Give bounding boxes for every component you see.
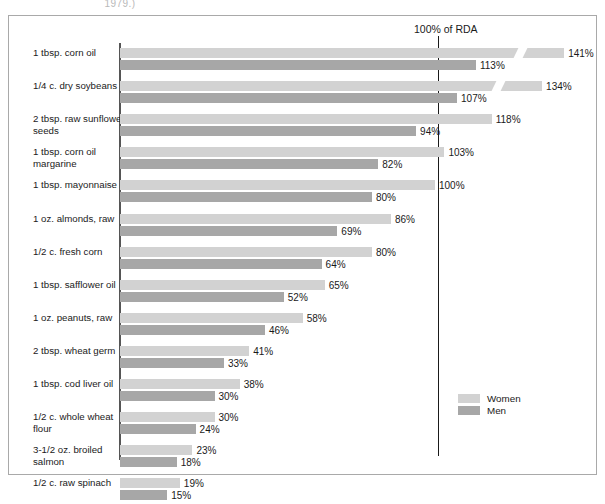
- bar-men: 46%: [120, 325, 265, 335]
- rda-reference-label: 100% of RDA: [414, 23, 478, 35]
- bar-pair: 58%46%: [120, 313, 303, 335]
- bar-women: 134%: [120, 81, 542, 91]
- bar-value-label: 41%: [253, 345, 273, 356]
- bar-row-label: 2 tbsp. wheat germ: [33, 345, 129, 357]
- bar-men: 30%: [120, 391, 215, 401]
- bar-row-label: 3-1/2 oz. broiled salmon: [33, 444, 129, 467]
- plot-area: 100% of RDA 1 tbsp. corn oil141%113%1/4 …: [9, 16, 596, 474]
- legend-label: Women: [487, 393, 521, 405]
- bar-row-label: 1 tbsp. corn oil margarine: [33, 146, 129, 169]
- chart-frame: 100% of RDA 1 tbsp. corn oil141%113%1/4 …: [8, 15, 597, 475]
- bar-value-label: 80%: [376, 246, 396, 257]
- bar-women: 19%: [120, 478, 180, 488]
- bar-pair: 38%30%: [120, 379, 240, 401]
- bar-pair: 141%113%: [120, 48, 564, 70]
- bar-pair: 41%33%: [120, 346, 249, 368]
- bar-value-label: 52%: [288, 291, 308, 302]
- bar-men: 18%: [120, 457, 177, 467]
- bar-women: 65%: [120, 280, 325, 290]
- bar-men: 82%: [120, 159, 378, 169]
- bar-row-label: 1 oz. almonds, raw: [33, 213, 129, 225]
- bar-value-label: 46%: [269, 324, 289, 335]
- bar-value-label: 38%: [244, 379, 264, 390]
- bar-women: 100%: [120, 180, 435, 190]
- bar-men: 64%: [120, 259, 322, 269]
- bar-men: 80%: [120, 192, 372, 202]
- bar-value-label: 33%: [228, 357, 248, 368]
- bar-pair: 134%107%: [120, 81, 542, 103]
- bar-women: 103%: [120, 147, 444, 157]
- bar-value-label: 94%: [420, 126, 440, 137]
- bar-men: 52%: [120, 292, 284, 302]
- bar-value-label: 69%: [341, 225, 361, 236]
- bar-women: 23%: [120, 445, 192, 455]
- bar-women: 118%: [120, 114, 492, 124]
- bar-men: 107%: [120, 93, 457, 103]
- bar-value-label: 80%: [376, 192, 396, 203]
- chart-legend: WomenMen: [458, 393, 521, 416]
- bar-pair: 23%18%: [120, 445, 192, 467]
- legend-label: Men: [487, 405, 506, 417]
- bar-row-label: 1/4 c. dry soybeans: [33, 80, 129, 92]
- bar-women: 58%: [120, 313, 303, 323]
- bar-value-label: 19%: [184, 478, 204, 489]
- bar-women: 141%: [120, 48, 564, 58]
- bar-women: 38%: [120, 379, 240, 389]
- bar-value-label: 30%: [219, 391, 239, 402]
- bar-men: 33%: [120, 358, 224, 368]
- bar-value-label: 23%: [196, 445, 216, 456]
- bar-value-label: 113%: [480, 60, 505, 71]
- bar-men: 24%: [120, 424, 196, 434]
- bar-row-label: 2 tbsp. raw sunflower seeds: [33, 113, 129, 136]
- bar-value-label: 15%: [171, 490, 191, 501]
- bar-break-mark: [513, 47, 528, 59]
- bar-pair: 118%94%: [120, 114, 492, 136]
- bar-value-label: 65%: [329, 279, 349, 290]
- bar-pair: 30%24%: [120, 412, 215, 434]
- caption-fragment: 1979.): [60, 0, 180, 9]
- bar-women: 80%: [120, 247, 372, 257]
- bar-row-label: 1/2 c. whole wheat flour: [33, 411, 129, 434]
- bar-pair: 103%82%: [120, 147, 444, 169]
- legend-swatch-women: [458, 394, 480, 403]
- legend-swatch-men: [458, 406, 480, 415]
- bar-men: 15%: [120, 490, 167, 500]
- bar-value-label: 134%: [546, 81, 572, 92]
- bar-value-label: 82%: [382, 159, 402, 170]
- bar-value-label: 18%: [181, 457, 201, 468]
- bar-row-label: 1 tbsp. cod liver oil: [33, 378, 129, 390]
- bar-men: 69%: [120, 226, 337, 236]
- bar-men: 94%: [120, 126, 416, 136]
- bar-row-label: 1 oz. peanuts, raw: [33, 312, 129, 324]
- bar-row-label: 1 tbsp. safflower oil: [33, 279, 129, 291]
- bar-pair: 86%69%: [120, 214, 391, 236]
- bar-men: 113%: [120, 60, 476, 70]
- bar-value-label: 141%: [568, 48, 594, 59]
- bar-value-label: 86%: [395, 213, 415, 224]
- bar-women: 41%: [120, 346, 249, 356]
- legend-entry: Women: [458, 393, 521, 405]
- bar-value-label: 58%: [307, 312, 327, 323]
- bar-row-label: 1 tbsp. mayonnaise: [33, 179, 129, 191]
- bar-value-label: 118%: [496, 114, 521, 125]
- bar-row-label: 1/2 c. fresh corn: [33, 246, 129, 258]
- bar-value-label: 64%: [326, 258, 346, 269]
- bar-value-label: 100%: [439, 180, 465, 191]
- bar-women: 86%: [120, 214, 391, 224]
- bar-women: 30%: [120, 412, 215, 422]
- bar-value-label: 30%: [219, 412, 239, 423]
- bar-row-label: 1 tbsp. corn oil: [33, 47, 129, 59]
- bar-break-mark: [491, 80, 506, 92]
- bar-pair: 100%80%: [120, 180, 435, 202]
- bar-row-label: 1/2 c. raw spinach: [33, 477, 129, 489]
- bar-value-label: 107%: [461, 93, 487, 104]
- bar-pair: 19%15%: [120, 478, 180, 500]
- bar-value-label: 103%: [448, 147, 474, 158]
- legend-entry: Men: [458, 405, 521, 417]
- bar-pair: 80%64%: [120, 247, 372, 269]
- bar-pair: 65%52%: [120, 280, 325, 302]
- bar-value-label: 24%: [200, 424, 220, 435]
